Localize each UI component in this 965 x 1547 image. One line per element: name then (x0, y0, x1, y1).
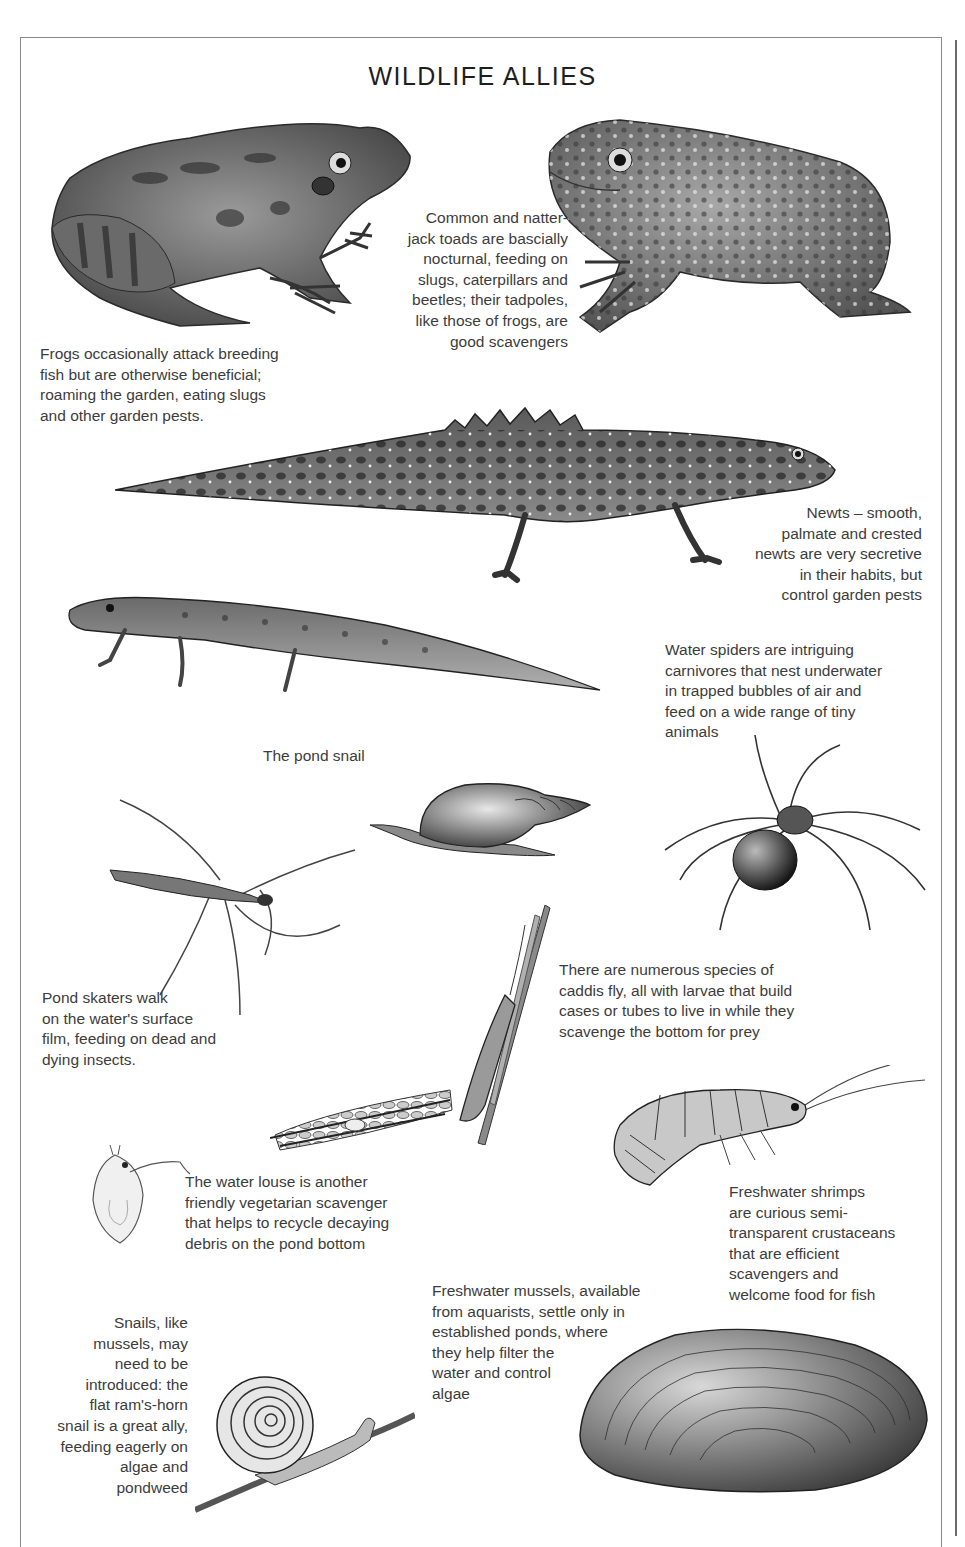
caddis-fly-caption: There are numerous species of caddis fly… (559, 960, 794, 1042)
page-edge-line (955, 40, 957, 1536)
common-toad-illustration (540, 112, 930, 342)
water-spider-illustration (660, 730, 930, 945)
pond-snail-illustration (365, 775, 595, 865)
smooth-newt-illustration (65, 590, 605, 705)
pond-skaters-caption: Pond skaters walk on the water's surface… (42, 988, 216, 1070)
caddis-fly-illustration (450, 905, 560, 1145)
snails-caption: Snails, like mussels, may need to be int… (30, 1313, 188, 1498)
toads-caption: Common and natter- jack toads are bascia… (360, 208, 568, 352)
water-louse-illustration (85, 1140, 195, 1245)
freshwater-shrimp-illustration (590, 1065, 930, 1190)
water-louse-caption: The water louse is another friendly vege… (185, 1172, 389, 1254)
freshwater-mussel-illustration (575, 1325, 930, 1495)
ramshorn-snail-illustration (195, 1365, 415, 1515)
pond-skater-illustration (100, 795, 360, 1020)
shrimps-caption: Freshwater shrimps are curious semi- tra… (729, 1182, 895, 1306)
newts-caption: Newts – smooth, palmate and crested newt… (690, 503, 922, 606)
caddis-larva-case-illustration (270, 1080, 455, 1155)
water-spiders-caption: Water spiders are intriguing carnivores … (665, 640, 882, 743)
pond-snail-caption: The pond snail (263, 746, 365, 767)
page-title: WILDLIFE ALLIES (0, 62, 965, 91)
